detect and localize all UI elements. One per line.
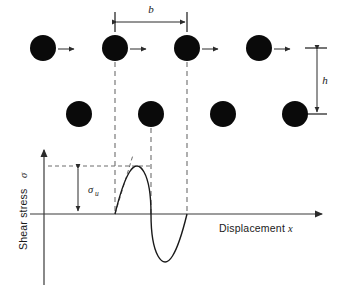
- atom-top-4: [246, 35, 272, 61]
- atom-bottom-1: [66, 101, 92, 127]
- h-dimension: h: [305, 48, 328, 114]
- atom-bottom-4: [282, 101, 308, 127]
- atom-top-1: [30, 35, 56, 61]
- sigma-u-label: σ: [88, 184, 94, 195]
- x-axis-label-group: Displacement x: [219, 222, 293, 234]
- sigma-u-subscript: u: [95, 189, 99, 198]
- upper-atom-plane: [30, 35, 290, 61]
- atom-top-3: [174, 35, 200, 61]
- b-label: b: [148, 3, 154, 15]
- sigma-u-dimension: σ u: [48, 166, 150, 211]
- h-label: h: [322, 74, 328, 86]
- atom-bottom-3: [210, 101, 236, 127]
- y-axis-label-group: Shear stress σ: [17, 172, 29, 250]
- axes: [30, 150, 322, 285]
- y-axis-symbol: σ: [18, 172, 29, 178]
- figure-canvas: b h: [0, 0, 343, 299]
- lower-atom-plane: [66, 101, 308, 127]
- atom-top-2: [102, 35, 128, 61]
- x-axis-symbol: x: [287, 223, 293, 234]
- theoretical-shear-strength-figure: b h: [0, 0, 343, 299]
- x-axis-label: Displacement: [219, 222, 285, 234]
- y-axis-label: Shear stress: [17, 189, 29, 250]
- projection-lines: [115, 62, 187, 214]
- atom-bottom-2: [138, 101, 164, 127]
- b-dimension: b: [115, 3, 187, 32]
